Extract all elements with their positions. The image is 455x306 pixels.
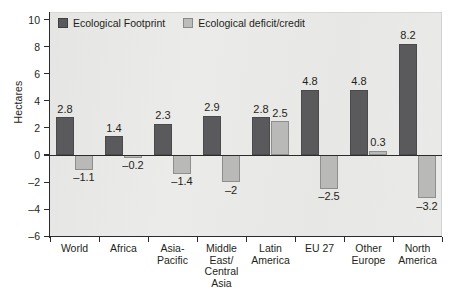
- y-axis-tick-label: 4: [0, 95, 40, 107]
- bar-value-label: –3.2: [416, 200, 437, 212]
- bar-deficit-credit: [222, 155, 241, 182]
- y-axis-tick: [44, 46, 50, 47]
- x-axis-category-label: EU 27: [305, 243, 334, 255]
- bar-value-label: –2.5: [318, 190, 339, 202]
- plot-right-edge: [441, 12, 442, 237]
- x-axis-tick: [148, 237, 149, 242]
- bar-deficit-credit: [418, 155, 437, 198]
- y-axis-tick: [44, 182, 50, 183]
- bar-value-label: 1.4: [106, 122, 121, 134]
- x-axis-tick: [344, 237, 345, 242]
- bar-footprint: [56, 117, 75, 155]
- x-axis-category-label: Latin America: [251, 243, 290, 266]
- x-axis-tick: [246, 237, 247, 242]
- y-axis-tick: [44, 127, 50, 128]
- bar-footprint: [252, 117, 271, 155]
- bar-footprint: [350, 90, 369, 155]
- bar-value-label: 4.8: [302, 75, 317, 87]
- y-axis-tick: [44, 19, 50, 20]
- x-axis-tick: [197, 237, 198, 242]
- x-axis-tick: [295, 237, 296, 242]
- bar-footprint: [301, 90, 320, 155]
- bar-value-label: 2.8: [253, 103, 268, 115]
- legend-swatch-icon-footprint: [58, 18, 68, 28]
- y-axis-tick-label: 10: [0, 14, 40, 26]
- y-axis-tick-label: –6: [0, 230, 40, 242]
- x-axis-category-label: Africa: [110, 243, 137, 255]
- bar-value-label: –1.1: [73, 171, 94, 183]
- bar-footprint: [203, 116, 222, 155]
- bar-deficit-credit: [320, 155, 339, 189]
- x-axis-category-label: Other Europe: [352, 243, 386, 266]
- bar-deficit-credit: [173, 155, 192, 174]
- legend-swatch-icon-deficit: [183, 18, 193, 28]
- bar-value-label: 2.3: [155, 109, 170, 121]
- bar-value-label: –1.4: [171, 175, 192, 187]
- x-axis-tick: [99, 237, 100, 242]
- bar-footprint: [399, 44, 418, 155]
- bar-value-label: 2.8: [57, 103, 72, 115]
- x-axis-tick: [393, 237, 394, 242]
- chart-legend: Ecological Footprint Ecological deficit/…: [58, 17, 305, 29]
- x-axis-category-label: Middle East/ Central Asia: [205, 243, 239, 289]
- bar-footprint: [105, 136, 124, 155]
- bar-value-label: 4.8: [351, 75, 366, 87]
- y-axis-tick-label: –4: [0, 203, 40, 215]
- y-axis-tick-label: 2: [0, 122, 40, 134]
- legend-item-ecological-deficit-credit: Ecological deficit/credit: [183, 17, 305, 29]
- bar-value-label: 2.9: [204, 101, 219, 113]
- bar-deficit-credit: [75, 155, 94, 170]
- ecological-footprint-bar-chart: Hectares 1086420–2–4–6 2.8–1.11.4–0.22.3…: [0, 0, 455, 306]
- x-axis-category-label: Asia- Pacific: [157, 243, 188, 266]
- bar-value-label: 0.3: [370, 136, 385, 148]
- legend-item-ecological-footprint: Ecological Footprint: [58, 17, 165, 29]
- bar-deficit-credit: [271, 121, 290, 155]
- zero-baseline: [50, 155, 442, 157]
- bar-value-label: 2.5: [272, 107, 287, 119]
- y-axis-tick-label: –2: [0, 176, 40, 188]
- x-axis-tick: [50, 237, 51, 242]
- y-axis-tick-label: 8: [0, 41, 40, 53]
- x-axis-category-label: World: [61, 243, 88, 255]
- bar-value-label: 8.2: [400, 29, 415, 41]
- bar-value-label: –0.2: [122, 159, 143, 171]
- bar-value-label: –2: [225, 184, 237, 196]
- y-axis-tick: [44, 209, 50, 210]
- plot-top-edge: [50, 12, 442, 13]
- y-axis-tick: [44, 73, 50, 74]
- bar-footprint: [154, 124, 173, 155]
- legend-label-deficit: Ecological deficit/credit: [198, 17, 305, 29]
- x-axis-tick: [442, 237, 443, 242]
- x-axis-category-label: North America: [398, 243, 437, 266]
- legend-label-footprint: Ecological Footprint: [73, 17, 165, 29]
- y-axis-tick: [44, 100, 50, 101]
- y-axis-tick-label: 6: [0, 68, 40, 80]
- y-axis-tick-label: 0: [0, 149, 40, 161]
